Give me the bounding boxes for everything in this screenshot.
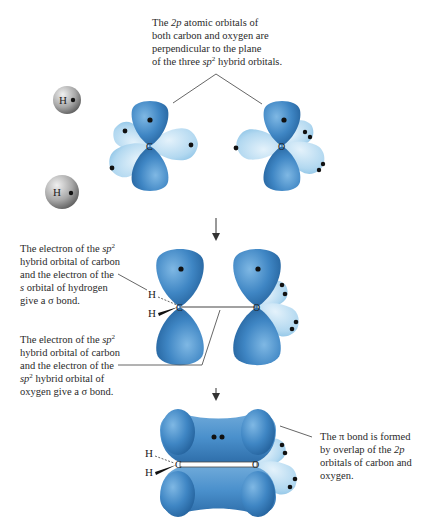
oxygen-label: O [278,141,285,152]
hydrogen-label: H [53,186,61,198]
hydrogen-atom-1: H [53,86,81,114]
svg-text:H: H [148,307,156,319]
hydrogen-atom-2: H [45,175,79,209]
carbon-label: C [146,141,153,152]
caption-pi-bond: The π bond is formed by overlap of the 2… [320,430,412,482]
svg-text:H: H [145,466,153,478]
svg-text:C: C [176,302,183,313]
svg-text:C: C [175,459,182,470]
svg-text:O: O [253,302,260,313]
svg-text:H: H [148,288,156,300]
hydrogen-label: H [59,94,67,106]
pi-caption-leader [280,426,312,437]
carbon-sp2-orbitals: C [103,101,198,191]
sigma-ch-leader [118,274,147,290]
sigma-bond-structure: C O H H [148,249,304,365]
svg-text:O: O [252,459,259,470]
svg-text:H: H [145,447,153,459]
top-caption-leader [173,74,262,104]
caption-2p-perpendicular: The 2p atomic orbitals of both carbon an… [152,16,282,68]
oxygen-sp2-orbitals: O [234,101,330,191]
caption-sigma-c-h: The electron of the sp2 hybrid orbital o… [20,242,120,307]
pi-bond-structure: C O H H [145,409,302,517]
arrow-down-1 [212,218,220,241]
arrow-down-2 [212,388,220,401]
caption-sigma-c-o: The electron of the sp2 hybrid orbital o… [20,333,120,398]
